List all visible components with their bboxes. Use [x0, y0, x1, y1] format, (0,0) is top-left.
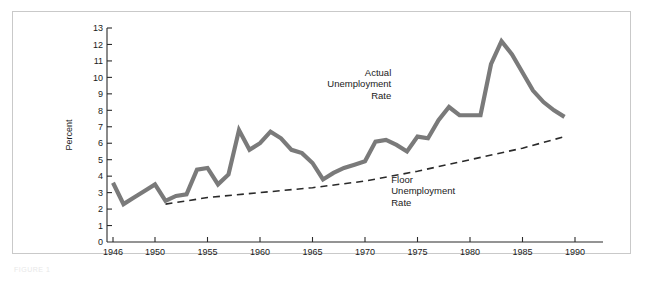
y-axis-tick-label: 1: [98, 221, 103, 231]
y-axis-tick-label: 8: [98, 106, 103, 116]
x-axis-tick-label: 1946: [103, 247, 123, 257]
y-axis-title: Percent: [64, 119, 74, 151]
y-axis-tick-label: 13: [93, 23, 103, 33]
x-axis-tick-label: 1950: [145, 247, 165, 257]
series-line-0: [113, 41, 565, 204]
y-axis-tick-label: 4: [98, 171, 103, 181]
y-axis-tick-label: 11: [94, 56, 103, 66]
y-axis-tick-label: 10: [93, 73, 103, 83]
y-axis-tick-label: 3: [98, 188, 103, 198]
chart-annotations: ActualUnemploymentRateFloorUnemploymentR…: [327, 67, 455, 208]
y-axis-tick-label: 12: [93, 40, 103, 50]
x-axis-tick-label: 1975: [407, 247, 427, 257]
x-axis-tick-label: 1990: [565, 247, 585, 257]
x-axis-tick-label: 1955: [197, 247, 217, 257]
y-axis-tick-label: 0: [98, 237, 103, 247]
y-axis-tick-label: 5: [98, 155, 103, 165]
actual-label-line: Unemployment: [327, 78, 391, 89]
series-line-1: [166, 137, 565, 204]
y-axis-tick-label: 9: [98, 89, 103, 99]
x-axis-tick-label: 1960: [250, 247, 270, 257]
y-axis-tick-label: 7: [98, 122, 103, 132]
floor-label-line: Floor: [391, 174, 413, 185]
figure-caption: FIGURE 1: [14, 266, 50, 273]
actual-label-line: Actual: [365, 67, 391, 78]
floor-label-line: Rate: [391, 197, 411, 208]
x-axis-tick-label: 1970: [355, 247, 375, 257]
floor-label-line: Unemployment: [391, 185, 455, 196]
chart-series: [113, 41, 565, 204]
x-axis-tick-label: 1985: [512, 247, 532, 257]
actual-label-line: Rate: [371, 90, 391, 101]
unemployment-line-chart: 0123456789101112131946195019551960196519…: [0, 0, 645, 281]
x-axis-tick-label: 1965: [302, 247, 322, 257]
x-axis-tick-label: 1980: [460, 247, 480, 257]
y-axis-tick-label: 6: [98, 138, 103, 148]
y-axis-tick-label: 2: [98, 204, 103, 214]
chart-axes: 0123456789101112131946195019551960196519…: [64, 23, 603, 257]
